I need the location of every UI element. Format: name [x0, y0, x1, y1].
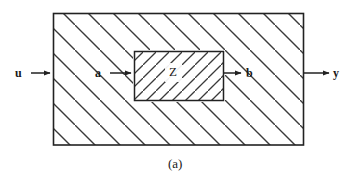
figure-container: u a Z b y (a) — [0, 0, 356, 186]
figure-caption: (a) — [168, 157, 182, 170]
signal-u-label: u — [15, 67, 22, 79]
signal-b-label: b — [246, 67, 253, 79]
inner-block-label: Z — [169, 65, 177, 78]
signal-a-label: a — [95, 67, 101, 79]
signal-y-label: y — [333, 67, 339, 79]
